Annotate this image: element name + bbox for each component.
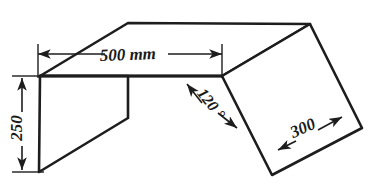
dimension-label-500: 500 mm (99, 44, 156, 65)
drawing-svg: 500 mm 250 120 ° 300 (0, 0, 373, 187)
technical-drawing-canvas: 500 mm 250 120 ° 300 (0, 0, 373, 187)
dimension-label-250: 250 (7, 115, 26, 142)
left-face (39, 76, 128, 172)
